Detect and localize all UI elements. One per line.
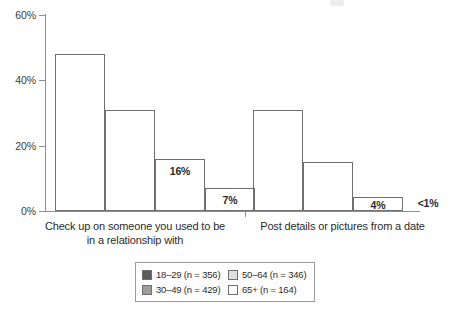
- legend-swatch-icon: [142, 285, 152, 295]
- bar-group1-age-30-49: 31%: [105, 110, 155, 211]
- legend-item-18-29[interactable]: 18–29 (n = 356): [142, 267, 222, 282]
- legend-swatch-icon: [142, 270, 152, 280]
- bar-value-label: 31%: [106, 116, 154, 128]
- group-label-line-2: in a relationship with: [40, 233, 230, 247]
- bar-value-label: 48%: [56, 60, 104, 72]
- bar-group2-age-50-64: 4%: [353, 197, 403, 211]
- legend-item-label: 50–64 (n = 346): [242, 269, 306, 280]
- bar-value-label: 15%: [304, 168, 352, 180]
- y-axis-label-0: 0%: [0, 205, 36, 217]
- bar-value-label: 4%: [354, 199, 402, 211]
- legend-item-65-plus[interactable]: 65+ (n = 164): [228, 282, 308, 297]
- y-axis-tick-0: [39, 211, 45, 212]
- group-label-line-1: Check up on someone you used to be: [40, 219, 230, 233]
- y-axis-label-40: 40%: [0, 74, 36, 86]
- legend-item-label: 30–49 (n = 429): [156, 284, 220, 295]
- y-axis-label-20: 20%: [0, 140, 36, 152]
- page-bleed-artifact: [330, 0, 344, 6]
- group-label-check-up: Check up on someone you used to be in a …: [40, 219, 230, 247]
- legend-item-label: 18–29 (n = 356): [156, 269, 220, 280]
- bar-group1-age-18-29: 48%: [55, 54, 105, 211]
- bar-group2-age-30-49: 15%: [303, 162, 353, 211]
- group-label-post-details: Post details or pictures from a date: [245, 219, 440, 233]
- legend-item-30-49[interactable]: 30–49 (n = 429): [142, 282, 222, 297]
- group-label-line-1: Post details or pictures from a date: [245, 219, 440, 233]
- y-axis-label-60: 60%: [0, 9, 36, 21]
- legend-item-50-64[interactable]: 50–64 (n = 346): [228, 267, 308, 282]
- bar-value-label: 7%: [206, 194, 254, 206]
- bar-value-label: 31%: [254, 116, 302, 128]
- bar-value-label: 16%: [156, 165, 204, 177]
- x-axis-line: [45, 211, 420, 212]
- bar-group1-age-50-64: 16%: [155, 159, 205, 211]
- bars-layer: 48% 31% 16% 7% 31% 15% 4% <1%: [45, 15, 420, 211]
- x-axis-group-separator-tick: [245, 212, 246, 217]
- legend-swatch-icon: [228, 270, 238, 280]
- bar-group2-age-65-plus-value: <1%: [403, 197, 450, 209]
- bar-group1-age-65-plus: 7%: [205, 188, 255, 211]
- legend: 18–29 (n = 356) 50–64 (n = 346) 30–49 (n…: [135, 262, 315, 302]
- legend-item-label: 65+ (n = 164): [242, 284, 296, 295]
- bar-chart: 60% 40% 20% 0% 48% 31% 16% 7% 31% 15% 4%…: [0, 0, 450, 309]
- legend-swatch-icon: [228, 285, 238, 295]
- bar-group2-age-18-29: 31%: [253, 110, 303, 211]
